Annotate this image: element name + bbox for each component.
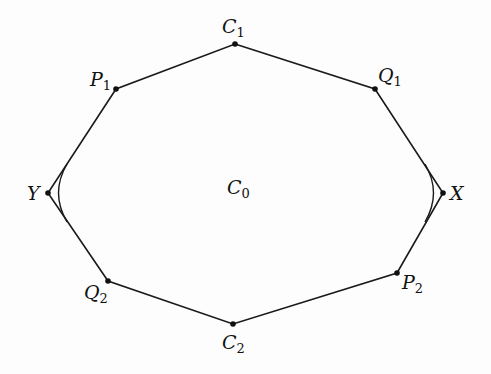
label-subscript: 1 [394, 74, 402, 89]
label-base: C [222, 331, 237, 353]
label-q1: Q1 [378, 66, 402, 88]
diagram-canvas: C1Q1XP2C2Q2YP1 C0 [0, 0, 491, 374]
point-c2 [230, 321, 236, 327]
label-subscript: 2 [100, 291, 108, 306]
point-y [45, 190, 51, 196]
point-p1 [113, 86, 119, 92]
region-label-c0: C0 [227, 178, 250, 200]
point-p2 [394, 270, 400, 276]
label-subscript: 2 [237, 341, 245, 356]
label-x: X [450, 184, 464, 203]
label-c2: C2 [222, 333, 245, 355]
label-p1: P1 [90, 70, 111, 92]
label-y: Y [27, 184, 40, 203]
point-q1 [372, 86, 378, 92]
label-c1: C1 [222, 17, 245, 39]
label-base: P [402, 271, 415, 293]
region-label-sub: 0 [242, 186, 250, 201]
label-base: P [90, 68, 103, 90]
label-subscript: 1 [237, 25, 245, 40]
label-base: Q [84, 281, 100, 303]
label-base: Q [378, 64, 394, 86]
region-label-base: C [227, 176, 242, 198]
label-subscript: 2 [415, 281, 423, 296]
left-arc [59, 164, 68, 222]
label-q2: Q2 [84, 283, 108, 305]
label-base: C [222, 15, 237, 37]
point-x [440, 190, 446, 196]
label-base: Y [27, 182, 40, 204]
point-c1 [232, 41, 238, 47]
label-p2: P2 [402, 273, 423, 295]
label-base: X [450, 182, 464, 204]
label-subscript: 1 [103, 78, 111, 93]
